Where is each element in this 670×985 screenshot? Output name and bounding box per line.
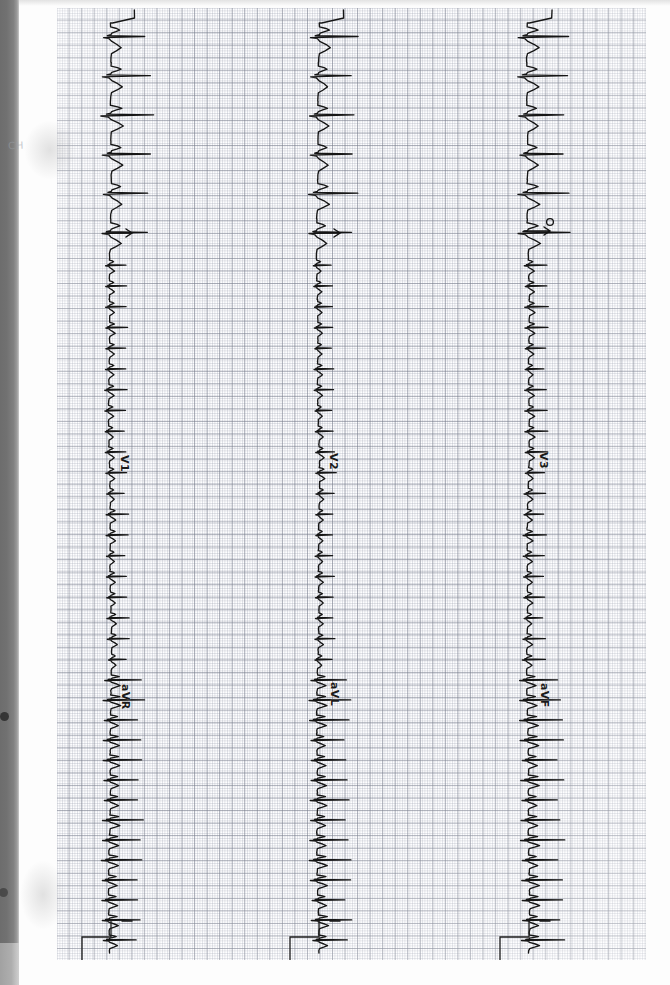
lead-label-avf: aVF [538, 683, 551, 708]
margin-pencil-note: CH [8, 140, 25, 152]
scanner-edge-strip-lower [0, 943, 19, 985]
lead-label-v1: V1 [118, 455, 131, 472]
lead-label-avl: aVL [328, 682, 341, 706]
binder-hole-icon [0, 712, 9, 721]
lead-label-avr: aVR [119, 684, 132, 710]
paper-top-shadow [19, 0, 670, 6]
lead-label-v2: V2 [327, 453, 340, 470]
ecg-scan-page: CH V1 aVR V2 aVL V3 aVF [0, 0, 670, 985]
lead-label-v3: V3 [537, 452, 550, 469]
ecg-grid-paper [57, 8, 646, 960]
